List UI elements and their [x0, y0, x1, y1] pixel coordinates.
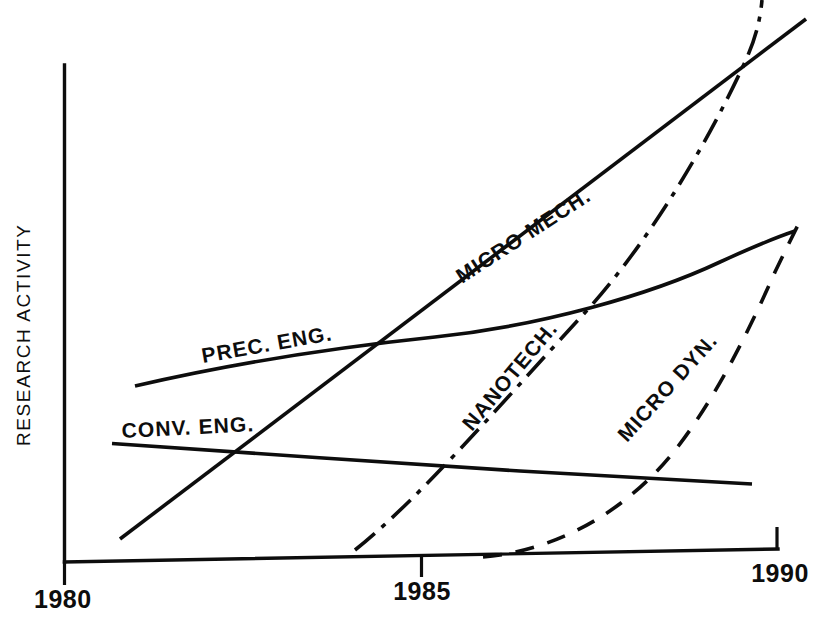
- curve-label-group: MICRO MECH. PREC. ENG. CONV. ENG. NANOTE…: [121, 183, 722, 445]
- axis-group: [65, 65, 779, 585]
- series-line-micro-dyn: [483, 215, 803, 557]
- research-activity-chart: MICRO MECH. PREC. ENG. CONV. ENG. NANOTE…: [0, 0, 819, 632]
- x-tick-label-1990: 1990: [751, 559, 809, 587]
- curve-label-conv-eng: CONV. ENG.: [121, 412, 255, 442]
- series-line-nanotech: [355, 0, 762, 550]
- y-axis-title: RESEARCH ACTIVITY: [13, 223, 34, 446]
- curve-label-micro-dyn: MICRO DYN.: [613, 328, 722, 445]
- chart-canvas: MICRO MECH. PREC. ENG. CONV. ENG. NANOTE…: [0, 0, 819, 632]
- curve-label-micro-mech: MICRO MECH.: [452, 183, 595, 287]
- x-tick-label-1980: 1980: [34, 585, 92, 613]
- x-tick-label-1985: 1985: [393, 577, 451, 605]
- curve-label-nanotech: NANOTECH.: [457, 317, 561, 435]
